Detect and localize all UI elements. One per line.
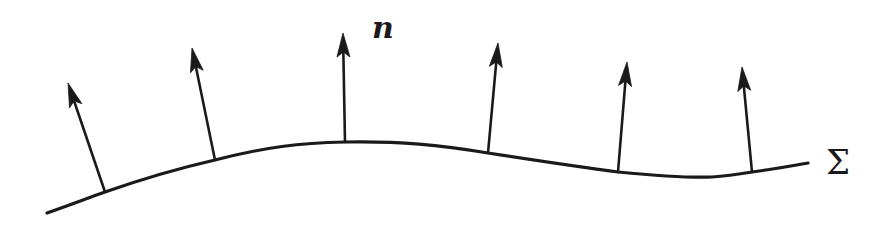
normal-vector-1 <box>68 83 105 192</box>
surface-curve <box>47 142 808 213</box>
normal-arrow-shaft <box>196 67 215 160</box>
normal-vector-6 <box>738 67 752 172</box>
normal-vectors <box>68 33 752 192</box>
normal-arrow-shaft <box>343 52 345 142</box>
normal-arrow-shaft <box>74 101 105 192</box>
normal-arrow-shaft <box>618 81 625 172</box>
normal-arrow-shaft <box>744 86 752 172</box>
normal-vector-4 <box>488 43 502 153</box>
normal-vector-3 <box>337 33 350 142</box>
normal-vector-5 <box>618 62 632 172</box>
normal-arrow-shaft <box>488 62 496 153</box>
normal-vector-2 <box>190 48 215 160</box>
surface-label: Σ <box>826 142 850 182</box>
surface-normals-diagram: n Σ <box>0 0 895 228</box>
normal-label: n <box>372 10 394 45</box>
